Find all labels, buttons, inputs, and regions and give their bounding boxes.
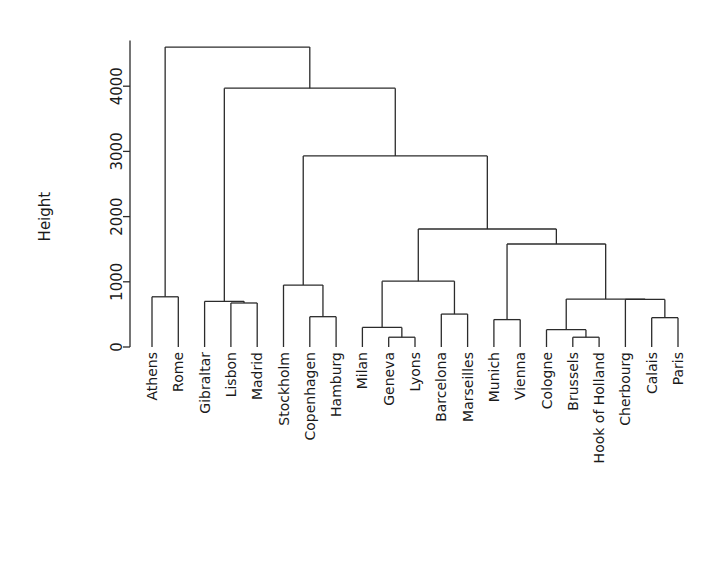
y-axis-title-text: Height xyxy=(36,192,54,242)
leaf-label: Brussels xyxy=(565,352,581,411)
leaf-label: Lisbon xyxy=(223,352,239,397)
y-axis-title: Height xyxy=(36,192,54,242)
dendrogram-figure: 01000200030004000 Height AthensRomeGibra… xyxy=(0,0,716,569)
dendrogram-tree xyxy=(152,47,678,347)
leaf-label: Barcelona xyxy=(433,352,449,422)
leaf-label: Milan xyxy=(354,352,370,389)
y-axis-tick-label: 2000 xyxy=(108,198,126,236)
leaf-label: Madrid xyxy=(249,352,265,400)
leaf-label: Athens xyxy=(144,352,160,400)
leaf-label: Calais xyxy=(644,352,660,394)
leaf-label: Rome xyxy=(170,352,186,392)
y-axis-tick-label: 0 xyxy=(108,342,126,352)
leaf-label: Marseilles xyxy=(460,352,476,422)
leaf-labels: AthensRomeGibraltarLisbonMadridStockholm… xyxy=(144,352,686,464)
leaf-label: Stockholm xyxy=(276,352,292,426)
leaf-label: Copenhagen xyxy=(302,352,318,441)
leaf-label: Lyons xyxy=(407,352,423,392)
leaf-label: Hamburg xyxy=(328,352,344,417)
leaf-label: Hook of Holland xyxy=(591,352,607,463)
leaf-label: Paris xyxy=(670,352,686,385)
leaf-label: Cherbourg xyxy=(617,352,633,426)
leaf-label: Vienna xyxy=(512,352,528,400)
y-axis-tick-label: 1000 xyxy=(108,263,126,301)
y-axis-tick-label: 4000 xyxy=(108,67,126,105)
y-axis-tick-label: 3000 xyxy=(108,132,126,170)
y-axis: 01000200030004000 xyxy=(108,41,130,352)
leaf-label: Cologne xyxy=(539,352,555,409)
leaf-label: Gibraltar xyxy=(197,352,213,414)
leaf-label: Geneva xyxy=(381,352,397,406)
dendrogram-canvas: 01000200030004000 Height AthensRomeGibra… xyxy=(0,0,716,569)
leaf-label: Munich xyxy=(486,352,502,402)
